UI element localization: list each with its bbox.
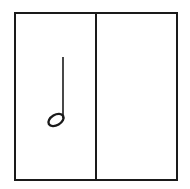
half-note-icon bbox=[0, 0, 190, 189]
